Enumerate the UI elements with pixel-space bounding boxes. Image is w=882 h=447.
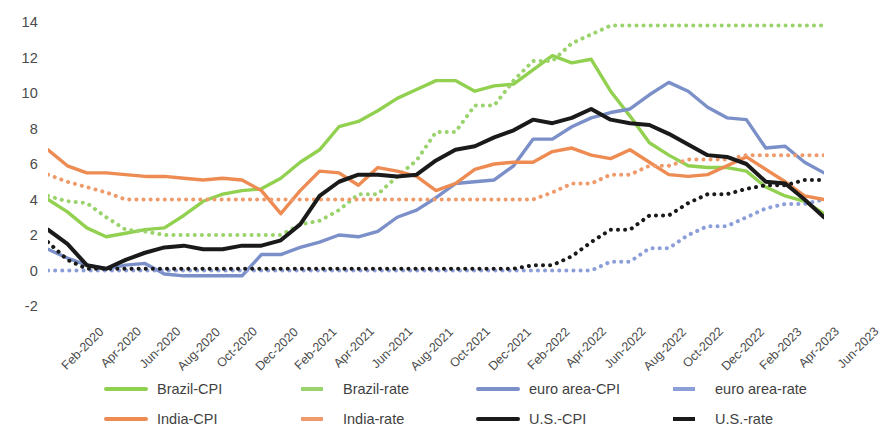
x-axis: Feb-2020Apr-2020Jun-2020Aug-2020Oct-2020…	[48, 306, 824, 368]
y-axis: -202468101214	[0, 22, 44, 306]
legend-item[interactable]: euro area-rate	[662, 381, 848, 397]
y-tick-label: -2	[25, 298, 38, 314]
y-tick-label: 12	[21, 50, 38, 66]
y-tick-label: 0	[30, 263, 38, 279]
legend-label: U.S.-rate	[715, 411, 773, 427]
legend-swatch-icon	[104, 387, 148, 391]
legend-swatch-icon	[290, 417, 334, 421]
y-tick-label: 8	[30, 121, 38, 137]
legend-label: euro area-rate	[715, 381, 807, 397]
legend-item[interactable]: India-CPI	[104, 411, 290, 427]
series-line-brazil-cpi	[48, 56, 824, 237]
x-tick-label: Dec-2020	[253, 325, 301, 373]
legend-label: India-rate	[343, 411, 404, 427]
series-line-india-cpi	[48, 148, 824, 214]
legend-item[interactable]: U.S.-CPI	[476, 411, 662, 427]
legend-swatch-icon	[290, 387, 334, 391]
legend-swatch-icon	[662, 417, 706, 421]
y-tick-label: 4	[30, 192, 38, 208]
legend-swatch-icon	[476, 417, 520, 421]
legend-label: Brazil-CPI	[157, 381, 222, 397]
legend-swatch-icon	[476, 387, 520, 391]
legend-label: India-CPI	[157, 411, 217, 427]
x-tick-label: Aug-2022	[641, 325, 689, 373]
legend-label: U.S.-CPI	[529, 411, 586, 427]
legend-label: euro area-CPI	[529, 381, 620, 397]
y-tick-label: 14	[21, 14, 38, 30]
x-tick-label: Apr-2023	[796, 324, 842, 370]
x-tick-label: Apr-2020	[98, 324, 144, 370]
legend-item[interactable]: Brazil-rate	[290, 381, 476, 397]
legend-label: Brazil-rate	[343, 381, 409, 397]
x-tick-label: Jun-2023	[835, 324, 882, 371]
legend-item[interactable]: Brazil-CPI	[104, 381, 290, 397]
legend-item[interactable]: euro area-CPI	[476, 381, 662, 397]
legend-item[interactable]: India-rate	[290, 411, 476, 427]
y-tick-label: 10	[21, 85, 38, 101]
y-tick-label: 2	[30, 227, 38, 243]
x-tick-label: Dec-2021	[486, 325, 534, 373]
legend-item[interactable]: U.S.-rate	[662, 411, 848, 427]
plot-area	[48, 22, 824, 306]
x-tick-label: Feb-2020	[59, 325, 107, 373]
series-line-u-s-rate	[48, 180, 824, 269]
x-tick-label: Aug-2021	[408, 325, 456, 373]
y-tick-label: 6	[30, 156, 38, 172]
chart-legend: Brazil-CPIBrazil-rateeuro area-CPIeuro a…	[104, 374, 804, 434]
legend-swatch-icon	[104, 417, 148, 421]
legend-swatch-icon	[662, 387, 706, 391]
plot-svg	[48, 22, 824, 306]
series-line-brazil-rate	[48, 26, 824, 235]
